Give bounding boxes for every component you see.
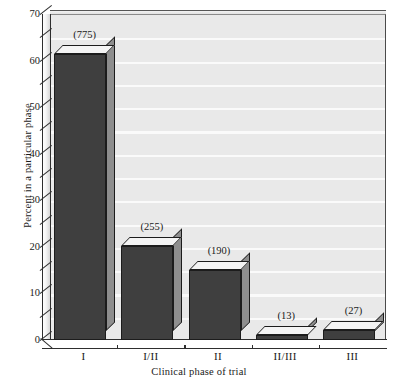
gridline	[50, 294, 385, 296]
y-axis-wall	[42, 14, 51, 340]
gridline	[50, 38, 385, 40]
y-axis-title: Percent in a particular phase	[22, 61, 33, 271]
x-axis-tick	[319, 345, 320, 348]
floor-top-edge	[42, 339, 387, 340]
x-axis-category-label: II/III	[252, 351, 319, 362]
y-axis-tick-label: 70	[6, 9, 40, 20]
plot-panel	[50, 14, 386, 340]
gridline	[50, 131, 385, 133]
x-axis-category-label: III	[319, 351, 386, 362]
gridline	[50, 225, 385, 227]
gridline	[50, 62, 385, 64]
gridline	[50, 201, 385, 203]
x-axis-category-label: I	[50, 351, 117, 362]
gridline	[50, 248, 385, 250]
gridline	[50, 271, 385, 273]
y-axis-tick-label: 10	[6, 288, 40, 299]
bar-chart: 010203040506070 (775)(255)(190)(13)(27) …	[0, 0, 398, 388]
floor-slab	[42, 340, 387, 349]
x-axis-tick	[117, 345, 118, 348]
gridline	[50, 85, 385, 87]
gridline	[50, 108, 385, 110]
x-axis-category-label: II	[184, 351, 251, 362]
gridline	[50, 318, 385, 320]
y-axis-tick-label: 0	[6, 335, 40, 346]
gridline	[50, 155, 385, 157]
x-axis-title: Clinical phase of trial	[0, 366, 398, 377]
floor-corner-bevel	[41, 338, 53, 349]
gridline	[50, 178, 385, 180]
x-axis-category-label: I/II	[117, 351, 184, 362]
x-axis-tick	[252, 345, 253, 348]
x-axis-tick	[184, 345, 185, 348]
